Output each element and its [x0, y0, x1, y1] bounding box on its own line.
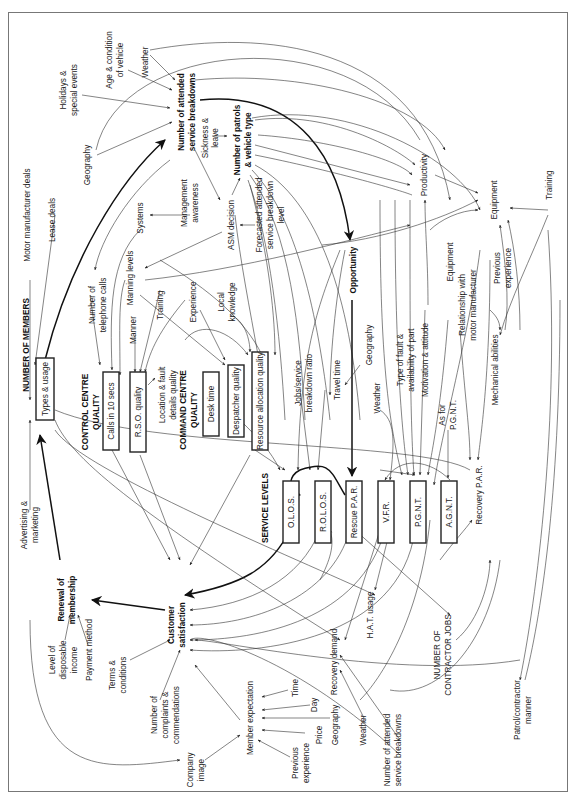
group-control-centre-2: QUALITY [92, 393, 101, 429]
label-holidays-1: Holidays & [59, 70, 68, 110]
box-label-agnt: A.G.N.T. [445, 497, 454, 528]
label-advertising-1: Advertising & [20, 500, 29, 549]
label-attended-breakdowns-bottom-1: Number of attended [383, 713, 392, 786]
label-travel-time: Travel time [333, 359, 342, 400]
label-customer-satisfaction-2: satisfaction [178, 602, 187, 648]
label-local-knowledge-1: Local [217, 292, 226, 312]
influence-diagram: Weather Age & condition of vehicle Holid… [0, 0, 576, 796]
label-experience: Experience [189, 281, 198, 322]
label-relationship-2: motor manufacturer [469, 269, 478, 341]
label-disposable-income-3: income [70, 646, 79, 673]
label-productivity: Productivity [420, 153, 429, 196]
box-label-resource-allocation: Resource allocation quality [256, 351, 265, 450]
label-complaints-1: Number of [150, 695, 159, 734]
label-location-fault-2: details quality [169, 369, 178, 420]
label-terms-1: Terms & [108, 659, 117, 690]
label-location-fault-1: Location & fault [158, 366, 167, 423]
label-motivation: Motivation & attitude [421, 322, 430, 397]
label-company-image-2: image [197, 758, 206, 781]
label-disposable-income-2: disposable [59, 640, 68, 680]
box-label-rso-quality: R.S.O. quality [134, 386, 143, 437]
label-geography-bottom: Geography [331, 704, 340, 745]
label-weather-top: Weather [141, 46, 150, 77]
label-training-left: Training [156, 290, 165, 320]
box-label-rescue-par: Rescue P.A.R. [350, 486, 359, 539]
label-complaints-2: complaints & [161, 691, 170, 738]
label-forecast-2: service breakdown [266, 180, 275, 249]
label-age-condition-2: of vehicle [116, 42, 125, 77]
label-attended-breakdowns-bottom-2: service breakdowns [394, 714, 403, 786]
label-price: Price [315, 725, 324, 744]
label-patrols-2: & vehicle type [244, 112, 253, 168]
label-weather-bottom: Weather [359, 714, 368, 745]
label-telephone-calls-1: Number of [88, 285, 97, 324]
box-label-desk-time: Desk time [207, 385, 216, 422]
label-patrol-contractor-manner-1: Patrol/contractor [513, 680, 522, 740]
label-attended-breakdowns-2: service breakdowns [188, 72, 197, 151]
box-label-types-usage: Types & usage [41, 361, 50, 416]
label-previous-experience-bottom-1: Previous [291, 747, 300, 779]
label-hat-usage: H.A.T. usage [366, 591, 375, 638]
label-member-expectation: Member expectation [246, 680, 255, 755]
label-sickness-2: leave [211, 128, 220, 148]
label-previous-experience-right-2: experience [504, 248, 513, 289]
label-renewal-2: membership [68, 576, 77, 625]
label-type-of-fault-1: Type of fault & [396, 333, 405, 386]
label-systems: Systems [136, 202, 145, 233]
group-service-levels: SERVICE LEVELS [261, 473, 270, 543]
boxes [36, 352, 457, 543]
label-patrols-1: Number of patrols [233, 104, 242, 175]
label-jobs-ratio-2: breakdown ratio [305, 353, 314, 412]
label-management-awareness-1: Management [180, 178, 189, 227]
label-previous-experience-right-1: Previous [493, 252, 502, 284]
label-motor-manufacturer-deals: Motor manufacturer deals [23, 168, 32, 261]
label-recovery-par: Recovery P.A.R. [475, 465, 484, 524]
label-contractor-jobs-1: NUMBER OF [433, 630, 442, 679]
label-opportunity: Opportunity [349, 246, 358, 293]
label-as-for-pgnt-1: As for [438, 404, 447, 426]
label-sickness-1: Sickness & [201, 117, 210, 158]
label-local-knowledge-2: knowledge [228, 282, 237, 322]
box-label-olos: O.L.O.S. [287, 496, 296, 528]
box-label-pgnt: P.G.N.T. [414, 497, 423, 527]
label-renewal-1: Renewal of [57, 578, 66, 621]
group-command-centre-2: QUALITY [190, 391, 199, 427]
label-forecast-3: level [277, 206, 286, 223]
labels: Weather Age & condition of vehicle Holid… [20, 31, 554, 788]
label-training-right: Training [545, 170, 554, 200]
label-company-image-1: Company [186, 752, 195, 788]
label-jobs-ratio-1: Jobs/service [294, 360, 303, 406]
label-geography-mid: Geography [365, 324, 374, 365]
label-weather-mid: Weather [373, 382, 382, 413]
label-age-condition-1: Age & condition [105, 31, 114, 89]
label-payment-method: Payment method [85, 619, 94, 681]
label-equipment-mid: Equipment [446, 242, 455, 282]
label-management-awareness-2: awareness [191, 183, 200, 223]
group-control-centre-1: CONTROL CENTRE [81, 373, 90, 450]
label-time: Time [291, 679, 300, 697]
label-forecast-1: Forecasted attended [255, 177, 264, 253]
label-disposable-income-1: Level of [48, 645, 57, 674]
label-terms-2: conditions [119, 657, 128, 694]
label-type-of-fault-2: availability of part [407, 328, 416, 392]
group-command-centre-1: COMMAND CENTRE [179, 370, 188, 450]
label-customer-satisfaction-1: Customer [167, 605, 176, 644]
label-relationship-1: Relationship with [458, 274, 467, 336]
label-lease-deals: Lease deals [48, 198, 57, 242]
label-telephone-calls-2: telephone calls [99, 278, 108, 333]
box-label-rolos: R.O.L.O.S. [319, 492, 328, 532]
label-attended-breakdowns-1: Number of attended [177, 73, 186, 150]
label-recovery-demand: Recovery demand [330, 628, 339, 695]
box-label-calls-10-secs: Calls in 10 secs [107, 382, 116, 439]
box-label-despatcher-quality: Despatcher quality [232, 366, 241, 435]
label-manner: Manner [129, 316, 138, 344]
label-as-for-pgnt-2: P.G.N.T. [449, 400, 458, 430]
label-previous-experience-bottom-2: experience [302, 743, 311, 784]
label-asm-decision: ASM decision [227, 200, 236, 251]
label-number-of-members: NUMBER OF MEMBERS [22, 298, 31, 392]
label-equipment-right: Equipment [490, 180, 499, 220]
label-mechanical-abilities: Mechanical abilities [491, 335, 500, 406]
label-geography-top: Geography [83, 144, 92, 185]
label-manning-levels: Manning levels [126, 251, 135, 306]
box-label-vfr: V.F.R. [382, 501, 391, 523]
